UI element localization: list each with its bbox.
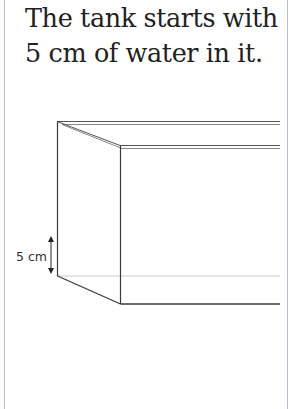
tank-bottom-side-edge: [58, 276, 121, 304]
double-headed-arrow-icon: [48, 236, 54, 274]
water-depth-label: 5 cm: [16, 249, 47, 264]
tank-top-back-edge: [57, 122, 280, 125]
tank-diagram: 5 cm: [0, 0, 291, 409]
tank-top-side-edge: [57, 122, 122, 149]
tank-top-front-edge: [120, 146, 280, 149]
